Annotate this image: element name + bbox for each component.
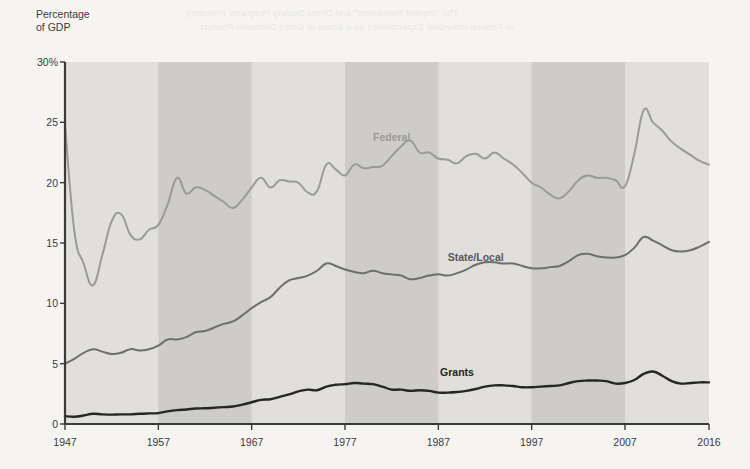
decade-band-1957-1967 [158, 62, 251, 424]
x-axis-label-1997: 1997 [520, 436, 543, 448]
y-axis-label-30: 30% [18, 56, 58, 68]
series-label-grants: Grants [440, 366, 474, 378]
y-axis-label-20: 20 [18, 177, 58, 189]
y-axis-label-5: 5 [18, 358, 58, 370]
y-axis-label-15: 15 [18, 237, 58, 249]
decade-band-1977-1987 [345, 62, 438, 424]
y-axis-label-10: 10 [18, 297, 58, 309]
x-axis-label-1977: 1977 [333, 436, 356, 448]
x-axis-label-1947: 1947 [53, 436, 76, 448]
series-label-federal: Federal [373, 131, 410, 143]
line-chart [0, 0, 750, 469]
y-axis-label-0: 0 [18, 418, 58, 430]
x-axis-label-1987: 1987 [427, 436, 450, 448]
y-axis-tick-labels: 051015202530% [14, 0, 58, 469]
x-axis-label-1957: 1957 [147, 436, 170, 448]
x-axis-label-1967: 1967 [240, 436, 263, 448]
series-label-state-local: State/Local [448, 251, 504, 263]
decade-band-1997-2007 [532, 62, 625, 424]
x-axis-label-2016: 2016 [697, 436, 720, 448]
x-axis-label-2007: 2007 [613, 436, 636, 448]
y-axis-label-25: 25 [18, 116, 58, 128]
chart-stage: The “Implicit Revolution” and Direct Soc… [0, 0, 750, 469]
